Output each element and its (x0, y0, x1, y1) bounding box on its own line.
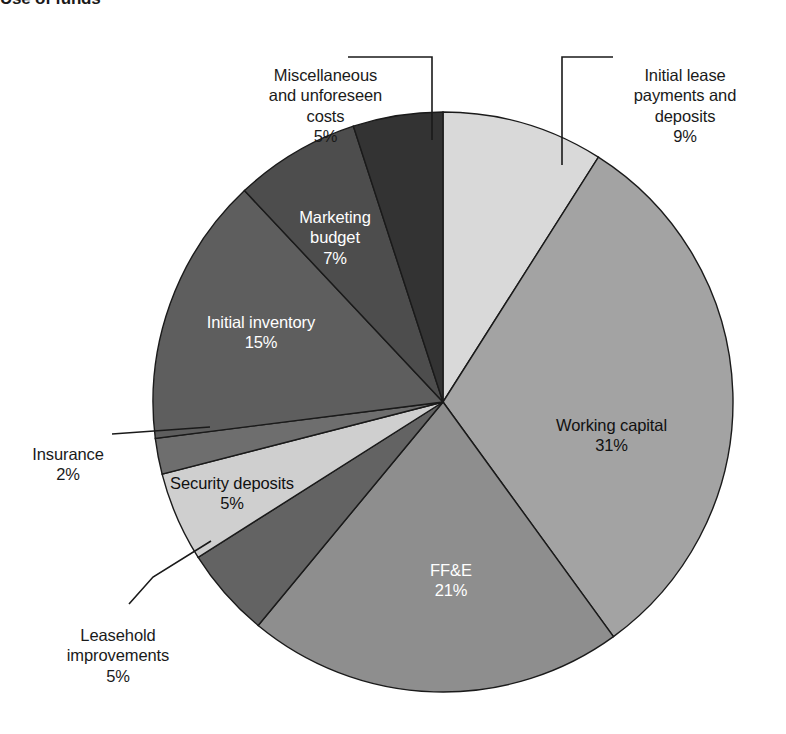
slice-label-insurance-percent: 2% (18, 464, 118, 485)
slice-label-initial-lease-text: Initial lease payments and deposits (634, 66, 736, 125)
slice-label-insurance: Insurance 2% (18, 423, 118, 505)
slice-label-leasehold-improvements: Leasehold improvements 5% (18, 604, 218, 707)
slice-label-marketing-budget: Marketing budget 7% (275, 186, 395, 289)
slice-label-initial-inventory: Initial inventory 15% (161, 291, 361, 373)
slice-label-security-deposits-percent: 5% (132, 493, 332, 514)
slice-label-initial-lease: Initial lease payments and deposits 9% (595, 44, 775, 167)
slice-label-ffe-text: FF&E (430, 561, 472, 579)
slice-label-miscellaneous-text: Miscellaneous and unforeseen costs (269, 66, 382, 125)
slice-label-initial-inventory-percent: 15% (161, 332, 361, 353)
slice-label-initial-lease-percent: 9% (595, 126, 775, 147)
pie-chart-figure: Use of funds Miscellaneous and unforesee… (0, 0, 786, 734)
slice-label-leasehold-improvements-percent: 5% (18, 666, 218, 687)
slice-label-working-capital-percent: 31% (524, 435, 699, 456)
slice-label-leasehold-improvements-text: Leasehold improvements (67, 626, 169, 665)
slice-label-security-deposits: Security deposits 5% (132, 452, 332, 534)
slice-label-initial-inventory-text: Initial inventory (207, 313, 315, 331)
slice-label-marketing-budget-percent: 7% (275, 248, 395, 269)
slice-label-working-capital-text: Working capital (556, 416, 667, 434)
slice-label-working-capital: Working capital 31% (524, 394, 699, 476)
slice-label-security-deposits-text: Security deposits (170, 474, 294, 492)
slice-label-miscellaneous: Miscellaneous and unforeseen costs 5% (228, 44, 423, 167)
slice-label-miscellaneous-percent: 5% (228, 126, 423, 147)
slice-label-marketing-budget-text: Marketing budget (299, 208, 371, 247)
slice-label-ffe-percent: 21% (396, 580, 506, 601)
slice-label-ffe: FF&E 21% (396, 539, 506, 621)
slice-label-insurance-text: Insurance (32, 445, 104, 463)
